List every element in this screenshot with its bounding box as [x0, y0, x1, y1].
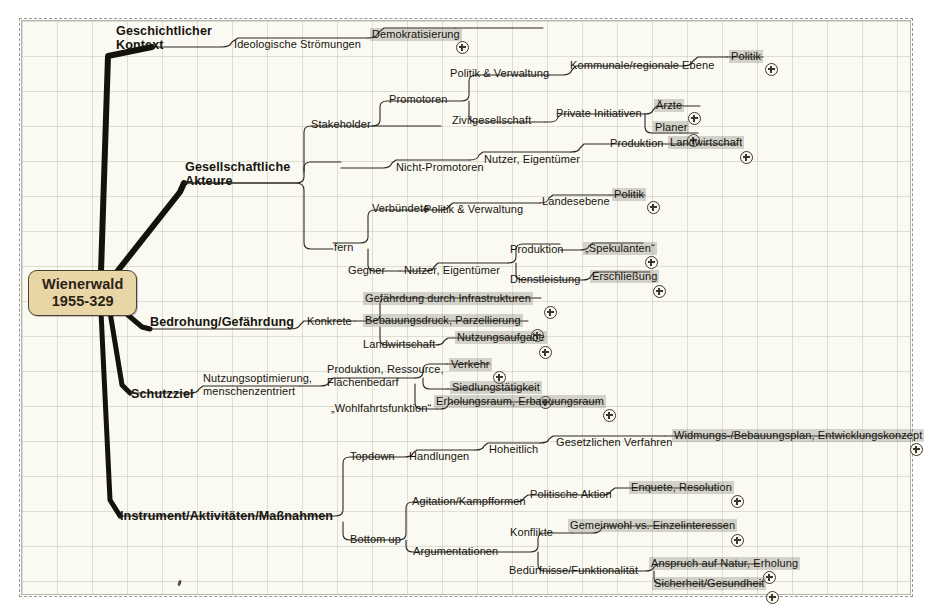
branch-gesellschaftliche-akteure[interactable]: Gesellschaftliche Akteure [185, 160, 290, 189]
leaf-sicherheit-gesundheit[interactable]: Sicherheit/Gesundheit [652, 577, 766, 590]
node-konflikte[interactable]: Konflikte [510, 526, 553, 539]
node-label: Gegner [348, 264, 385, 276]
expand-icon-politik-2[interactable] [647, 201, 660, 214]
leaf-demokratisierung[interactable]: Demokratisierung [370, 28, 462, 41]
node-handlungen[interactable]: Handlungen [409, 450, 469, 463]
expand-icon-spekulanten[interactable] [645, 256, 658, 269]
leaf-label: Bebauungsdruck, Parzellierung [365, 314, 521, 326]
leaf-label: Anspruch auf Natur, Erholung [651, 557, 798, 569]
node-nutzer-eigentuemer-1[interactable]: Nutzer, Eigentümer [484, 153, 580, 166]
node-gesetzlichen-verfahren[interactable]: Gesetzlichen Verfahren [556, 436, 673, 449]
node-konkrete[interactable]: Konkrete [307, 315, 352, 328]
leaf-spekulanten[interactable]: „Spekulanten“ [583, 242, 657, 255]
leaf-widmungs-bebauungsplan[interactable]: Widmungs-/Bebauungsplan, Entwicklungskon… [672, 429, 924, 442]
node-label: Politik & Verwaltung [424, 203, 523, 215]
branch-label: Instrument/Aktivitäten/Maßnahmen [120, 509, 333, 523]
node-label: Landesebene [542, 195, 610, 207]
expand-icon-aerzte[interactable] [688, 112, 701, 125]
leaf-enquete-resolution[interactable]: Enquete, Resolution [629, 481, 734, 494]
node-fern[interactable]: fern [334, 241, 353, 254]
branch-label-line2: Kontext [116, 38, 212, 52]
leaf-planer[interactable]: Planer [653, 121, 689, 134]
leaf-erschliessung[interactable]: Erschließung [590, 270, 659, 283]
branch-geschichtlicher-kontext[interactable]: Geschichtlicher Kontext [116, 24, 212, 53]
leaf-erholungsraum-erbauuungsraum[interactable]: Erholungsraum, Erbauuungsraum [434, 395, 606, 408]
node-label: fern [334, 241, 353, 253]
node-dienstleistung[interactable]: Dienstleistung [510, 273, 581, 286]
expand-icon-nutzungsaufgabe[interactable] [539, 346, 552, 359]
node-label: Promotoren [389, 93, 447, 105]
node-wohlfahrtsfunktion[interactable]: „Wohlfahrtsfunktion“ [331, 402, 431, 415]
expand-icon-demokratisierung[interactable] [456, 41, 469, 54]
node-ideologische-stroemungen[interactable]: Ideologische Strömungen [234, 38, 361, 51]
leaf-label: Landwirtschaft [670, 136, 742, 148]
expand-icon-politik-1[interactable] [765, 63, 778, 76]
expand-icon-widmungsplan[interactable] [910, 443, 923, 456]
expand-icon-gefaehrdung-infrastrukturen[interactable] [544, 306, 557, 319]
node-label: Stakeholder [311, 118, 371, 130]
branch-instrument-aktivitaeten-massnahmen[interactable]: Instrument/Aktivitäten/Maßnahmen [120, 509, 333, 523]
branch-bedrohung-gefaehrdung[interactable]: Bedrohung/Gefährdung [150, 315, 294, 329]
node-produktion-1[interactable]: Produktion [610, 137, 664, 150]
node-label: Produktion [610, 137, 664, 149]
root-node[interactable]: Wienerwald 1955-329 [28, 270, 137, 316]
node-label-line2: menschenzentriert [203, 385, 312, 398]
leaf-label: Erholungsraum, Erbauuungsraum [436, 395, 604, 407]
leaf-landwirtschaft[interactable]: Landwirtschaft [668, 136, 744, 149]
node-hoheitlich[interactable]: Hoheitlich [489, 443, 538, 456]
expand-icon-sicherheit[interactable] [766, 591, 779, 604]
leaf-politik-2[interactable]: Politik [612, 188, 646, 201]
leaf-anspruch-natur-erholung[interactable]: Anspruch auf Natur, Erholung [649, 557, 800, 570]
leaf-label: Gefährdung durch Infrastrukturen [365, 292, 531, 304]
node-label: Ideologische Strömungen [234, 38, 361, 50]
node-landesebene[interactable]: Landesebene [542, 195, 610, 208]
node-nutzer-eigentuemer-2[interactable]: Nutzer, Eigentümer [404, 264, 500, 277]
leaf-politik-1[interactable]: Politik [729, 50, 763, 63]
expand-icon-gemeinwohl[interactable] [731, 534, 744, 547]
leaf-nutzungsaufgabe[interactable]: Nutzungsaufgabe [455, 331, 547, 344]
node-promotoren[interactable]: Promotoren [389, 93, 447, 106]
node-label: Konkrete [307, 315, 352, 327]
branch-label-line2: Akteure [185, 174, 290, 188]
node-label-line2: Flächenbedarf [327, 376, 444, 389]
leaf-gemeinwohl-einzelinteressen[interactable]: Gemeinwohl vs. Einzelinteressen [568, 519, 737, 532]
leaf-bebauungsdruck-parzellierung[interactable]: Bebauungsdruck, Parzellierung [363, 314, 523, 327]
node-politische-aktion[interactable]: Politische Aktion [530, 488, 612, 501]
node-politik-verwaltung-2[interactable]: Politik & Verwaltung [424, 203, 523, 216]
node-gegner[interactable]: Gegner [348, 264, 385, 277]
node-kommunale-regionale-ebene[interactable]: Kommunale/regionale Ebene [570, 59, 714, 72]
leaf-label: Sicherheit/Gesundheit [654, 577, 764, 589]
node-label: Topdown [350, 450, 395, 462]
node-verbuendete[interactable]: Verbündete [372, 202, 429, 215]
node-nicht-promotoren[interactable]: Nicht-Promotoren [396, 161, 484, 174]
node-produktion-ressource-flaechenbedarf[interactable]: Produktion, Ressource, Flächenbedarf [327, 363, 444, 388]
mindmap-canvas: Wienerwald 1955-329 Geschichtlicher Kont… [0, 0, 933, 609]
node-label: Nutzungsoptimierung, [203, 372, 312, 384]
expand-icon-erholungsraum[interactable] [603, 409, 616, 422]
leaf-aerzte[interactable]: Ärzte [654, 99, 684, 112]
node-label: Dienstleistung [510, 273, 581, 285]
leaf-label: Siedlungstätigkeit [452, 381, 540, 393]
node-topdown[interactable]: Topdown [350, 450, 395, 463]
leaf-label: „Spekulanten“ [585, 242, 655, 254]
node-landwirtschaft-mid[interactable]: Landwirtschaft [363, 338, 435, 351]
node-stakeholder[interactable]: Stakeholder [311, 118, 371, 131]
node-nutzungsoptimierung[interactable]: Nutzungsoptimierung, menschenzentriert [203, 372, 312, 397]
leaf-siedlungstaetigkeit[interactable]: Siedlungstätigkeit [450, 381, 542, 394]
node-produktion-2[interactable]: Produktion [510, 243, 564, 256]
node-label: Politische Aktion [530, 488, 612, 500]
node-bottom-up[interactable]: Bottom up [350, 533, 401, 546]
expand-icon-enquete[interactable] [731, 495, 744, 508]
node-zivilgesellschaft[interactable]: Zivilgesellschaft [452, 114, 531, 127]
node-agitation-kampfformen[interactable]: Agitation/Kampfformen [412, 495, 526, 508]
node-politik-verwaltung-1[interactable]: Politik & Verwaltung [450, 67, 549, 80]
leaf-label: Widmungs-/Bebauungsplan, Entwicklungskon… [674, 429, 922, 441]
node-argumentationen[interactable]: Argumentationen [413, 545, 498, 558]
leaf-verkehr[interactable]: Verkehr [449, 358, 492, 371]
expand-icon-landwirtschaft[interactable] [740, 151, 753, 164]
node-beduerfnisse-funktionalitaet[interactable]: Bedürfnisse/Funktionalität [509, 564, 638, 577]
leaf-gefaehrdung-infrastrukturen[interactable]: Gefährdung durch Infrastrukturen [363, 292, 533, 305]
branch-schutzziel[interactable]: Schutzziel [131, 387, 194, 401]
node-private-initiativen[interactable]: Private Initiativen [556, 107, 642, 120]
expand-icon-erschliessung[interactable] [653, 285, 666, 298]
